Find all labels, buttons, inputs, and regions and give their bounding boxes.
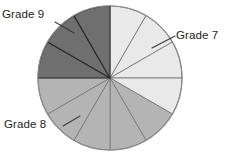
- pie-chart-figure: Grade 9 Grade 7 Grade 8: [0, 0, 230, 153]
- pie-slice-group: [38, 6, 182, 150]
- pie-chart-svg: [0, 0, 230, 153]
- pie-label-grade8: Grade 8: [4, 118, 46, 130]
- pie-label-grade7: Grade 7: [176, 29, 218, 41]
- pie-label-grade9: Grade 9: [2, 8, 44, 20]
